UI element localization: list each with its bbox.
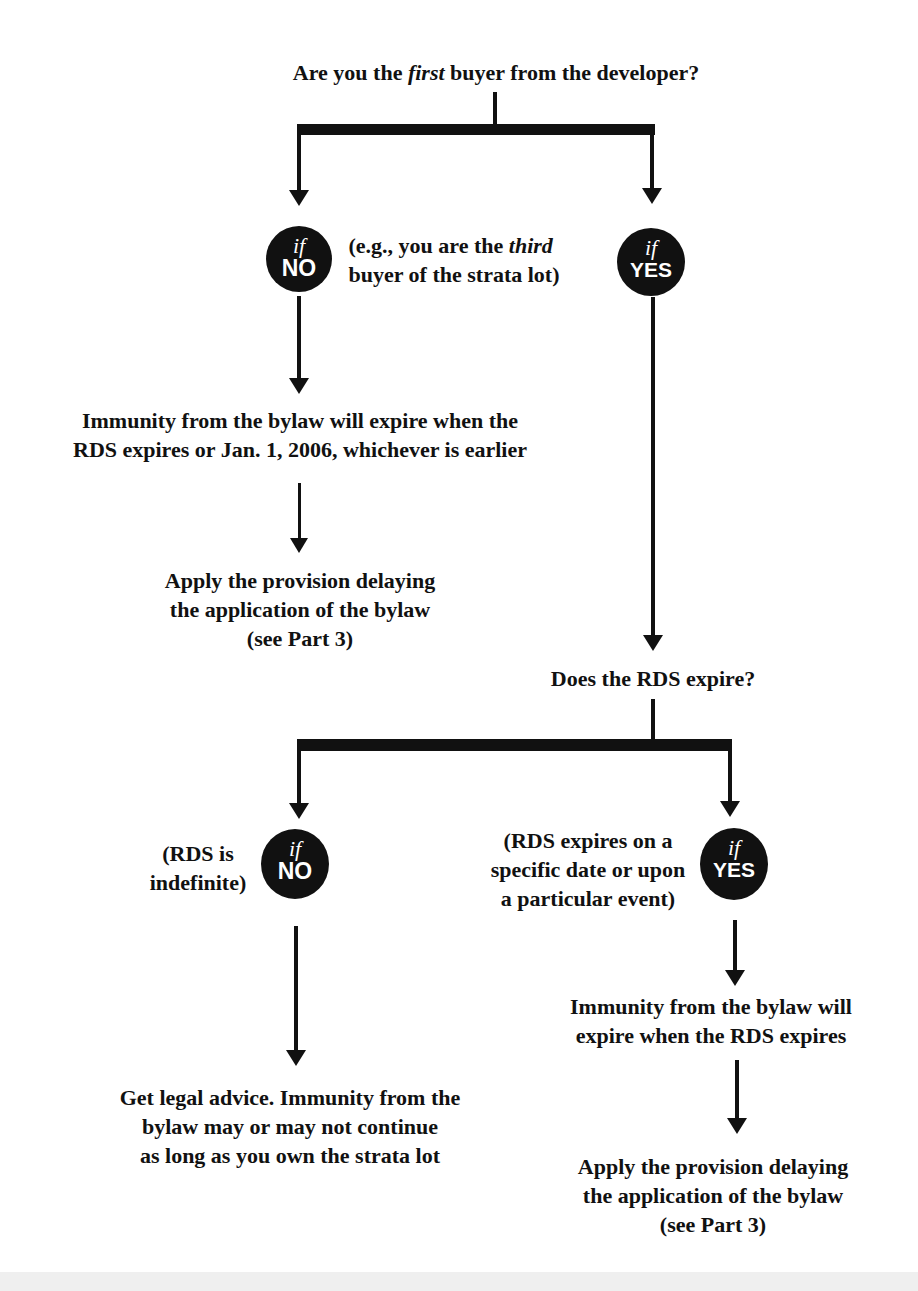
no1-to-result-line <box>297 296 301 380</box>
q2-stem-line <box>651 699 655 741</box>
no1-action-arrowhead-icon <box>290 538 308 553</box>
yes-label: YES <box>617 258 685 282</box>
no1-action-text: Apply the provision delaying the applica… <box>165 566 435 653</box>
if-yes-badge-1: if YES <box>617 228 685 296</box>
q1-no-arrowhead-icon <box>289 190 309 206</box>
if-yes-badge-2: if YES <box>700 828 768 900</box>
q1-no-drop-line <box>297 130 301 192</box>
q2-yes-drop-line <box>728 745 732 803</box>
no1-result-text: Immunity from the bylaw will expire when… <box>73 406 527 464</box>
yes2-result-to-action-line <box>735 1060 739 1120</box>
yes2-result-arrowhead-icon <box>725 970 745 986</box>
yes-label: YES <box>700 858 768 882</box>
yes2-action-arrowhead-icon <box>727 1118 747 1134</box>
q2-no-arrowhead-icon <box>289 803 309 819</box>
q1-split-bar <box>297 124 655 135</box>
q2-yes-arrowhead-icon <box>720 801 740 817</box>
question-first-buyer: Are you the first buyer from the develop… <box>293 58 699 87</box>
no-label: NO <box>266 256 332 280</box>
no1-result-arrowhead-icon <box>289 378 309 394</box>
q2-no-drop-line <box>297 745 301 805</box>
yes2-to-result-line <box>733 920 737 972</box>
if-no-badge-2: if NO <box>261 829 329 899</box>
q1-yes-arrowhead-icon <box>642 188 662 204</box>
yes2-expires-note: (RDS expires on a specific date or upon … <box>491 826 686 913</box>
q1-yes-drop-line <box>650 130 654 190</box>
yes2-result-text: Immunity from the bylaw will expire when… <box>570 992 852 1050</box>
q2-split-bar <box>297 739 732 751</box>
no-label: NO <box>261 859 329 883</box>
if-label: if <box>266 236 332 256</box>
scan-bottom-strip <box>0 1272 918 1291</box>
yes2-action-text: Apply the provision delaying the applica… <box>578 1152 848 1239</box>
no2-to-result-line <box>294 926 298 1052</box>
question-emphasis: first <box>408 60 445 85</box>
no2-indefinite-note: (RDS is indefinite) <box>150 839 247 897</box>
if-label: if <box>700 838 768 858</box>
if-label: if <box>617 238 685 258</box>
no1-result-to-action-line <box>298 483 301 539</box>
yes1-q2-arrowhead-icon <box>643 635 663 651</box>
no2-result-text: Get legal advice. Immunity from the byla… <box>120 1083 461 1170</box>
question-rds-expire: Does the RDS expire? <box>551 664 755 693</box>
if-label: if <box>261 839 329 859</box>
q1-stem-line <box>493 92 497 126</box>
no2-result-arrowhead-icon <box>286 1050 306 1066</box>
yes1-to-q2-line <box>651 297 655 637</box>
no1-example-note: (e.g., you are the third buyer of the st… <box>349 231 560 289</box>
if-no-badge-1: if NO <box>266 226 332 292</box>
